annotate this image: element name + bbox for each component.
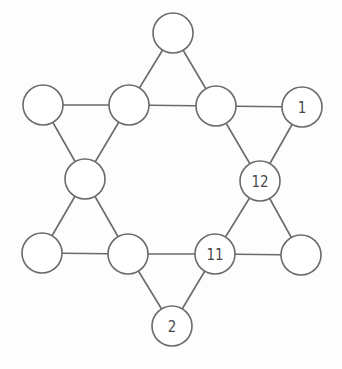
node-inner-right[interactable]: 12: [240, 161, 280, 201]
node-circle[interactable]: [22, 233, 62, 273]
node-lower-left[interactable]: [22, 233, 62, 273]
node-label: 12: [251, 173, 268, 191]
node-circle[interactable]: [281, 235, 321, 275]
node-circle[interactable]: [109, 85, 149, 125]
nodes-layer: 112112: [22, 13, 322, 346]
node-bottom[interactable]: 2: [152, 306, 192, 346]
node-top[interactable]: [153, 13, 193, 53]
node-upper-right[interactable]: 1: [282, 87, 322, 127]
node-circle[interactable]: [65, 159, 105, 199]
node-label: 11: [206, 246, 223, 264]
node-label: 1: [298, 99, 307, 117]
node-circle[interactable]: [196, 86, 236, 126]
node-lower-right[interactable]: [281, 235, 321, 275]
star-diagram: 112112: [0, 0, 342, 369]
diagram-svg: 112112: [0, 0, 342, 369]
node-inner-lower-left[interactable]: [108, 234, 148, 274]
node-inner-left[interactable]: [65, 159, 105, 199]
node-circle[interactable]: [108, 234, 148, 274]
node-inner-upper-right[interactable]: [196, 86, 236, 126]
node-circle[interactable]: [153, 13, 193, 53]
node-inner-lower-right[interactable]: 11: [195, 234, 235, 274]
node-label: 2: [168, 318, 177, 336]
node-inner-upper-left[interactable]: [109, 85, 149, 125]
node-circle[interactable]: [23, 85, 63, 125]
node-upper-left[interactable]: [23, 85, 63, 125]
